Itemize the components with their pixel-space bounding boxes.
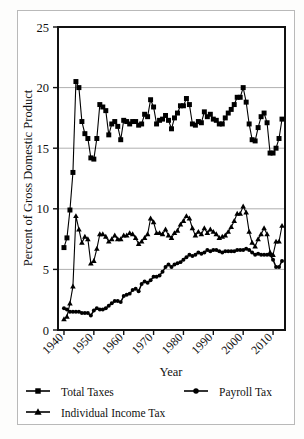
x-tick-label: 1950 [69, 330, 96, 357]
data-point-triangle [166, 233, 172, 238]
chart-legend: Total TaxesPayroll TaxIndividual Income … [26, 386, 272, 419]
data-point-circle [158, 273, 162, 277]
data-point-square [172, 115, 177, 120]
data-point-square [247, 121, 252, 126]
data-point-square [103, 108, 108, 113]
x-axis-ticks: 19401950196019701980199020002010 [39, 330, 275, 357]
data-point-square [70, 170, 75, 175]
data-point-triangle [231, 218, 237, 223]
legend-item-payroll-tax: Payroll Tax [184, 386, 272, 399]
data-point-square [79, 119, 84, 124]
data-point-square [241, 85, 246, 90]
data-point-triangle [190, 225, 196, 230]
data-point-square [151, 105, 156, 110]
data-point-triangle [67, 300, 73, 305]
data-point-triangle [163, 227, 169, 232]
data-point-square [35, 388, 40, 393]
data-point-square [202, 109, 207, 114]
data-point-triangle [261, 225, 267, 230]
y-tick-label: 25 [37, 21, 50, 35]
data-point-square [64, 235, 69, 240]
data-point-square [277, 136, 282, 141]
data-point-square [166, 118, 171, 123]
series-total-taxes [61, 79, 284, 250]
data-point-square [223, 115, 228, 120]
data-point-square [76, 85, 81, 90]
figure-container: 0510152025 19401950196019701980199020002… [0, 0, 304, 439]
y-tick-label: 20 [37, 81, 50, 95]
tax-revenue-line-chart: 0510152025 19401950196019701980199020002… [0, 0, 304, 439]
data-point-circle [137, 289, 141, 293]
data-point-circle [149, 278, 153, 282]
data-point-circle [193, 388, 198, 393]
data-point-square [145, 114, 150, 119]
x-tick-label: 1990 [189, 330, 216, 357]
data-point-triangle [202, 225, 208, 230]
y-tick-label: 0 [43, 324, 49, 338]
data-point-triangle [145, 231, 151, 236]
data-point-square [181, 103, 186, 108]
data-point-triangle [76, 227, 82, 232]
data-point-square [220, 121, 225, 126]
plot-frame [58, 27, 285, 330]
data-point-circle [119, 300, 123, 304]
data-series-group [61, 79, 285, 321]
data-point-square [229, 107, 234, 112]
data-point-square [91, 157, 96, 162]
data-point-square [187, 102, 192, 107]
series-individual-income-tax [61, 203, 285, 321]
data-point-triangle [148, 216, 154, 221]
data-point-square [199, 120, 204, 125]
data-point-square [73, 79, 78, 84]
data-point-triangle [175, 228, 181, 233]
y-tick-label: 15 [37, 142, 50, 156]
data-point-triangle [258, 231, 264, 236]
data-point-triangle [82, 234, 88, 239]
data-point-square [271, 151, 276, 156]
data-point-circle [128, 292, 132, 296]
data-point-circle [280, 259, 284, 263]
data-point-square [262, 111, 267, 116]
data-point-square [169, 126, 174, 131]
data-point-square [244, 100, 249, 105]
data-point-square [85, 136, 90, 141]
y-tick-label: 5 [43, 263, 49, 277]
data-point-square [106, 132, 111, 137]
data-point-square [232, 102, 237, 107]
data-point-square [256, 125, 261, 130]
data-point-triangle [246, 229, 252, 234]
data-point-circle [89, 313, 93, 317]
data-point-square [115, 124, 120, 129]
legend-label: Payroll Tax [219, 386, 272, 399]
series-payroll-tax [62, 247, 284, 318]
legend-label: Individual Income Tax [61, 407, 166, 419]
data-point-triangle [267, 250, 273, 255]
data-point-triangle [249, 240, 255, 245]
data-point-circle [161, 270, 165, 274]
data-point-triangle [264, 231, 270, 236]
data-point-triangle [91, 258, 97, 263]
data-point-square [238, 95, 243, 100]
data-point-square [175, 111, 180, 116]
y-tick-label: 10 [37, 202, 50, 216]
y-axis-ticks: 0510152025 [37, 21, 59, 338]
x-tick-label: 1970 [129, 330, 156, 357]
y-axis-label: Percent of Gross Domestic Product [21, 89, 35, 266]
x-axis-label: Year [159, 365, 183, 379]
data-point-square [94, 136, 99, 141]
data-point-circle [277, 265, 281, 269]
data-point-square [139, 121, 144, 126]
x-tick-label: 1960 [99, 330, 126, 357]
data-point-square [163, 113, 168, 118]
data-point-triangle [73, 213, 79, 218]
x-tick-label: 2010 [248, 330, 275, 357]
data-point-square [208, 112, 213, 117]
data-point-triangle [64, 314, 70, 319]
data-point-triangle [240, 203, 246, 208]
legend-item-individual-income-tax: Individual Income Tax [26, 407, 166, 419]
data-point-square [67, 208, 72, 213]
data-point-triangle [184, 213, 190, 218]
data-point-square [148, 97, 153, 102]
series-line [64, 82, 282, 248]
data-point-circle [271, 258, 275, 262]
